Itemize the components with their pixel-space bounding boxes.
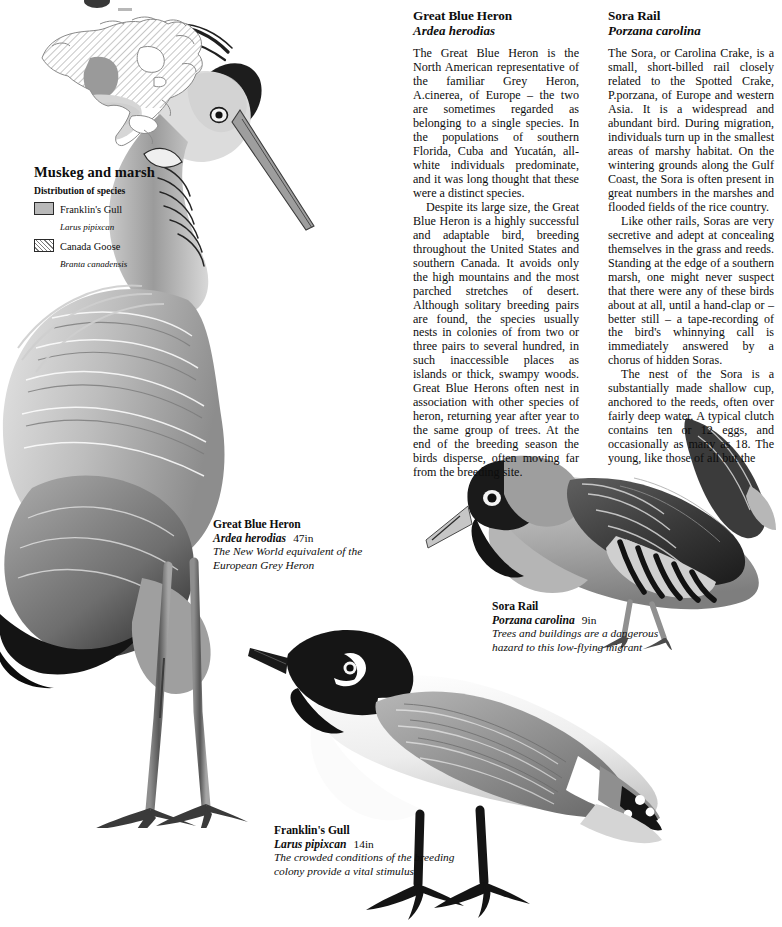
page-title-descender-artifact bbox=[84, 0, 110, 8]
caption-common-name: Franklin's Gull bbox=[274, 824, 474, 838]
legend-swatch-diagonal-hatch bbox=[34, 239, 54, 252]
article-paragraph: The Great Blue Heron is the North Americ… bbox=[413, 47, 579, 200]
caption-common-name: Great Blue Heron bbox=[213, 518, 403, 532]
distribution-map-panel: Muskeg and marsh Distribution of species… bbox=[36, 12, 216, 227]
caption-note: The New World equivalent of the European… bbox=[213, 545, 403, 572]
caption-franklins-gull: Franklin's Gull Larus pipixcan14in The c… bbox=[274, 824, 474, 878]
caption-size: 14in bbox=[353, 838, 373, 850]
article-paragraph: The Sora, or Carolina Crake, is a small,… bbox=[608, 47, 774, 214]
article-title: Sora Rail bbox=[608, 8, 774, 23]
caption-scientific-name: Porzana carolina bbox=[492, 614, 575, 627]
article-scientific-name: Ardea herodias bbox=[413, 23, 579, 38]
caption-scientific-name: Larus pipixcan bbox=[274, 838, 346, 851]
caption-great-blue-heron: Great Blue Heron Ardea herodias47in The … bbox=[213, 518, 403, 572]
article-sora-rail: Sora Rail Porzana carolina The Sora, or … bbox=[608, 8, 774, 466]
north-america-distribution-map bbox=[36, 12, 212, 152]
caption-note: Trees and buildings are a dangerous haza… bbox=[492, 627, 667, 654]
legend-common-name: Canada Goose bbox=[60, 241, 120, 252]
caption-size: 47in bbox=[293, 532, 313, 544]
legend-latin-name: Branta canadensis bbox=[60, 259, 127, 269]
legend-title: Muskeg and marsh bbox=[34, 164, 222, 181]
book-page: Muskeg and marsh Distribution of species… bbox=[0, 0, 782, 927]
article-title: Great Blue Heron bbox=[413, 8, 579, 23]
caption-scientific-name: Ardea herodias bbox=[213, 532, 286, 545]
article-paragraph: Despite its large size, the Great Blue H… bbox=[413, 201, 579, 480]
map-legend: Muskeg and marsh Distribution of species… bbox=[32, 164, 222, 274]
page-top-smudge-artifact bbox=[118, 8, 132, 11]
article-great-blue-heron: Great Blue Heron Ardea herodias The Grea… bbox=[413, 8, 579, 480]
article-paragraph: The nest of the Sora is a substantially … bbox=[608, 368, 774, 466]
article-scientific-name: Porzana carolina bbox=[608, 23, 774, 38]
legend-swatch-solid-grey bbox=[34, 202, 54, 215]
caption-sora-rail: Sora Rail Porzana carolina9in Trees and … bbox=[492, 600, 667, 654]
legend-item-franklins-gull: Franklin's Gull Larus pipixcan bbox=[32, 200, 222, 234]
legend-latin-name: Larus pipixcan bbox=[60, 222, 114, 232]
caption-common-name: Sora Rail bbox=[492, 600, 667, 614]
article-paragraph: Like other rails, Soras are very secreti… bbox=[608, 215, 774, 368]
legend-subtitle: Distribution of species bbox=[34, 185, 222, 196]
caption-note: The crowded conditions of the breeding c… bbox=[274, 851, 474, 878]
franklins-gull-illustration bbox=[248, 618, 668, 927]
caption-size: 9in bbox=[582, 614, 597, 626]
legend-common-name: Franklin's Gull bbox=[60, 204, 122, 215]
legend-item-canada-goose: Canada Goose Branta canadensis bbox=[32, 237, 222, 271]
